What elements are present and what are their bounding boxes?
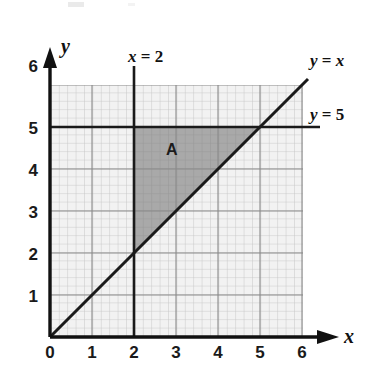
x-axis-name: x	[344, 326, 354, 346]
y-tick-label-5: 5	[18, 120, 38, 137]
label-x-equals-2-lhs: x	[128, 47, 137, 66]
label-y-equals-5-rhs: 5	[336, 105, 345, 124]
y-tick-label-3: 3	[18, 204, 38, 221]
coordinate-graph-figure: 0 1 2 3 4 5 6 1 2 3 4 5 6 y x x = 2 y = …	[0, 0, 379, 383]
x-tick-label-2: 2	[124, 344, 144, 361]
y-tick-label-4: 4	[18, 162, 38, 179]
label-y-equals-x-rhs: x	[336, 51, 345, 70]
x-tick-label-0: 0	[40, 344, 60, 361]
x-tick-label-6: 6	[292, 344, 312, 361]
label-y-equals-5: y = 5	[310, 106, 344, 123]
x-tick-label-4: 4	[208, 344, 228, 361]
label-x-equals-2: x = 2	[128, 48, 163, 65]
label-y-equals-5-op: =	[318, 105, 336, 124]
y-axis-name: y	[61, 36, 70, 56]
y-tick-label-6: 6	[18, 58, 38, 75]
label-x-equals-2-op: =	[137, 47, 155, 66]
label-y-equals-x: y = x	[310, 52, 344, 69]
x-tick-label-3: 3	[166, 344, 186, 361]
x-tick-label-5: 5	[250, 344, 270, 361]
label-y-equals-5-lhs: y	[310, 105, 318, 124]
x-tick-label-1: 1	[82, 344, 102, 361]
region-label-a: A	[166, 142, 178, 158]
label-x-equals-2-rhs: 2	[155, 47, 164, 66]
label-y-equals-x-op: =	[318, 51, 336, 70]
label-y-equals-x-lhs: y	[310, 51, 318, 70]
y-tick-label-2: 2	[18, 246, 38, 263]
y-tick-label-1: 1	[18, 288, 38, 305]
